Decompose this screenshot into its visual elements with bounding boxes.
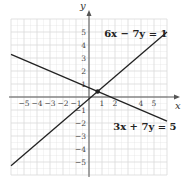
y-axis-label: y [79, 0, 86, 11]
x-tick-label: 4 [139, 99, 144, 108]
y-tick-label: −4 [75, 145, 86, 154]
y-tick-label: −1 [75, 106, 86, 115]
axes: x y [9, 0, 181, 177]
y-tick-label: 2 [81, 67, 86, 76]
equation-label: 6x − 7y = 1 [104, 28, 167, 39]
x-tick-label: 1 [100, 99, 105, 108]
x-tick-label: −3 [44, 99, 55, 108]
y-tick-label: −2 [75, 119, 86, 128]
y-tick-label: 3 [81, 54, 86, 63]
x-tick-label: 5 [152, 99, 157, 108]
y-tick-label: −5 [75, 158, 86, 167]
y-axis-arrow-icon [87, 10, 92, 16]
x-axis-label: x [175, 100, 181, 111]
points [95, 89, 99, 93]
x-tick-label: −4 [31, 99, 42, 108]
y-tick-label: −3 [75, 132, 86, 141]
linear-system-graph: x y −5−4−3−2−1124554321−1−2−3−4−5 6x − 7… [0, 0, 183, 184]
x-tick-label: −5 [18, 99, 29, 108]
x-tick-label: −2 [57, 99, 68, 108]
intersection-point [95, 89, 99, 93]
y-tick-label: 4 [81, 41, 86, 50]
y-tick-label: 5 [81, 28, 86, 37]
x-axis-arrow-icon [174, 95, 180, 100]
equation-label: 3x + 7y = 5 [113, 121, 176, 132]
